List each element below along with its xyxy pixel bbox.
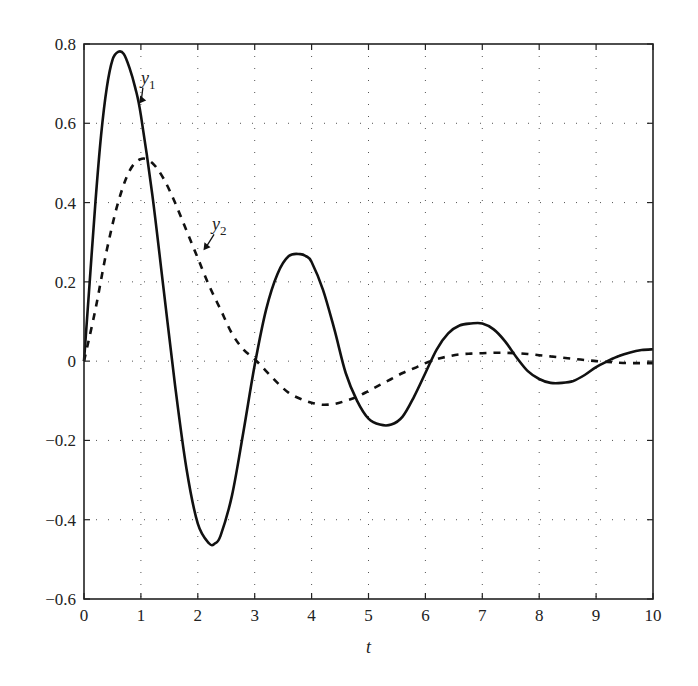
x-tick-label: 4 [307, 606, 316, 625]
x-tick-label: 8 [535, 606, 544, 625]
x-tick-label: 9 [592, 606, 601, 625]
x-axis-label: t [366, 637, 372, 657]
arrowhead-icon [203, 242, 210, 250]
y-tick-label: 0.8 [55, 35, 76, 54]
plot-frame [84, 44, 653, 599]
y-tick-label: 0.6 [55, 114, 76, 133]
line-chart: −0.6−0.4−0.200.20.40.60.8 012345678910 t… [0, 0, 698, 686]
x-tick-label: 6 [421, 606, 430, 625]
series-y1-line [84, 51, 653, 545]
x-tick-label: 1 [137, 606, 146, 625]
x-axis-tick-labels: 012345678910 [80, 606, 662, 625]
grid-lines [84, 44, 653, 599]
axis-ticks [84, 44, 653, 599]
series-y2-line [84, 159, 653, 405]
y-tick-label: −0.2 [45, 431, 76, 450]
x-tick-label: 7 [478, 606, 487, 625]
x-tick-label: 10 [645, 606, 662, 625]
series-annotations: y1y2 [139, 68, 227, 251]
y-tick-label: −0.4 [45, 511, 76, 530]
y-tick-label: 0.2 [55, 273, 76, 292]
x-tick-label: 0 [80, 606, 89, 625]
y-tick-label: −0.6 [45, 590, 76, 609]
y-tick-label: 0 [68, 352, 77, 371]
y-axis-tick-labels: −0.6−0.4−0.200.20.40.60.8 [45, 35, 76, 609]
x-tick-label: 3 [250, 606, 259, 625]
arrowhead-icon [139, 95, 146, 103]
data-series [84, 51, 653, 545]
x-tick-label: 2 [194, 606, 203, 625]
y-tick-label: 0.4 [55, 194, 77, 213]
annotation-y2: y2 [210, 214, 227, 238]
x-tick-label: 5 [364, 606, 373, 625]
annotation-y1: y1 [139, 68, 156, 92]
